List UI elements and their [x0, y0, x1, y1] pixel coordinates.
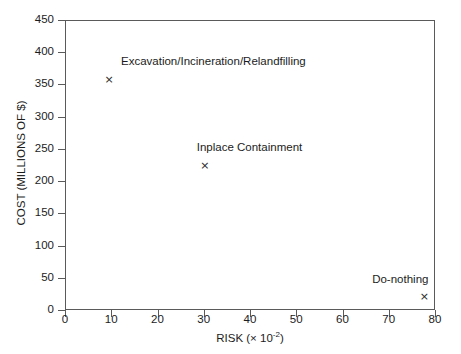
y-axis-title: COST (MILLIONS OF $) [15, 63, 27, 263]
y-tick-label: 250 [0, 143, 54, 153]
y-tick-label: 150 [0, 207, 54, 217]
x-axis-title-close: ) [280, 332, 284, 344]
x-tick-label: 40 [230, 313, 270, 325]
x-tick-label: 50 [276, 313, 316, 325]
x-tick-label: 10 [91, 313, 131, 325]
y-tick-mark [58, 52, 65, 53]
y-tick-mark [58, 278, 65, 279]
data-point-label: Do-nothing [372, 273, 428, 285]
y-tick-label: 50 [0, 272, 54, 282]
x-axis-title-base: RISK (× 10 [216, 332, 273, 344]
y-tick-label: 300 [0, 111, 54, 121]
data-point-marker: × [104, 74, 115, 85]
plot-area-frame: ×Excavation/Incineration/Relandfilling×I… [65, 20, 435, 310]
y-tick-label: 450 [0, 14, 54, 24]
scatter-chart-figure: 050100150200250300350400450 010203040506… [0, 0, 461, 354]
x-tick-label: 70 [369, 313, 409, 325]
y-tick-mark [58, 181, 65, 182]
y-tick-label: 200 [0, 175, 54, 185]
y-tick-mark [58, 310, 65, 311]
x-axis-title-exponent: -2 [273, 330, 280, 339]
data-point-label: Inplace Containment [197, 141, 302, 153]
y-tick-mark [58, 246, 65, 247]
x-tick-label: 60 [323, 313, 363, 325]
y-tick-mark [58, 84, 65, 85]
data-point-marker: × [419, 291, 430, 302]
x-tick-label: 30 [184, 313, 224, 325]
x-tick-label: 80 [415, 313, 455, 325]
y-tick-mark [58, 149, 65, 150]
x-tick-label: 20 [138, 313, 178, 325]
data-point-marker: × [199, 160, 210, 171]
y-tick-label: 350 [0, 78, 54, 88]
x-tick-label: 0 [45, 313, 85, 325]
data-point-label: Excavation/Incineration/Relandfilling [121, 55, 306, 67]
x-axis-title: RISK (× 10-2) [65, 330, 435, 344]
y-tick-mark [58, 213, 65, 214]
y-tick-mark [58, 117, 65, 118]
y-tick-label: 100 [0, 240, 54, 250]
y-tick-mark [58, 20, 65, 21]
y-tick-label: 400 [0, 46, 54, 56]
